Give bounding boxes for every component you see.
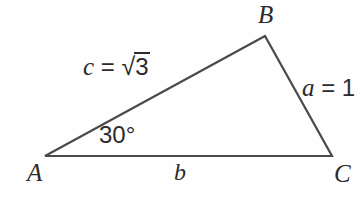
side-a-value: 1 [342,74,355,101]
side-a-variable: a [302,74,315,101]
side-c-equals-sign [94,53,101,80]
radical-sign-icon: √ [121,54,135,79]
vertex-label-a: A [27,160,42,185]
side-c-equals: = [101,53,115,80]
angle-label-a: 30° [99,123,135,147]
side-label-c: c = √3 [83,52,150,79]
vertex-label-c: C [334,161,351,186]
vertex-label-b: B [258,2,273,27]
triangle-figure: A B C c = √3 a = 1 b 30° [0,0,361,202]
side-label-b: b [174,160,186,184]
side-c-variable: c [83,53,94,80]
side-label-a: a = 1 [302,75,355,100]
spacer-a2 [335,74,342,101]
side-c-radicand: 3 [134,52,149,79]
side-c-radical: √3 [121,52,149,79]
spacer-c [115,53,122,80]
side-a-equals: = [321,74,335,101]
